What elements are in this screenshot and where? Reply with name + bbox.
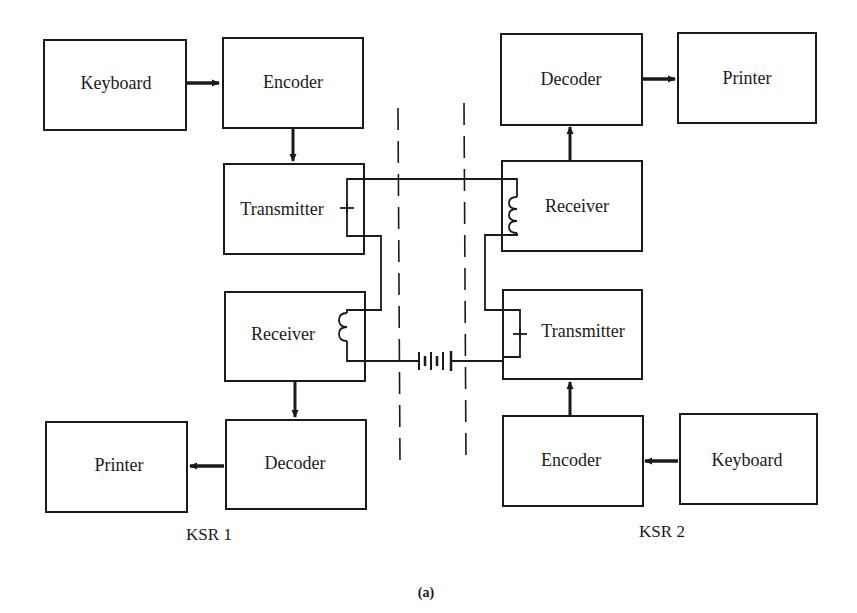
block-encoder-ksr2-label: Encoder (541, 450, 601, 471)
line-boundary-left (398, 108, 400, 462)
block-transmitter-ksr1-label: Transmitter (240, 199, 323, 220)
block-keyboard-ksr2-label: Keyboard (712, 450, 783, 471)
ksr-current-loop-diagram: Keyboard Encoder Transmitter Receiver De… (0, 0, 857, 613)
station-caption-ksr1: KSR 1 (186, 525, 232, 545)
battery-icon (419, 351, 451, 371)
block-printer-ksr1-label: Printer (95, 455, 144, 476)
block-receiver-ksr1-label: Receiver (251, 324, 315, 345)
block-printer-ksr2-label: Printer (723, 68, 772, 89)
figure-label: (a) (418, 585, 434, 601)
station-caption-ksr2: KSR 2 (639, 522, 685, 542)
line-boundary-right (464, 103, 466, 460)
block-decoder-ksr1-label: Decoder (265, 453, 326, 474)
block-decoder-ksr2-label: Decoder (541, 69, 602, 90)
block-keyboard-ksr1-label: Keyboard (81, 73, 152, 94)
current-loop-wiring (347, 179, 520, 361)
block-encoder-ksr1-label: Encoder (263, 72, 323, 93)
block-transmitter-ksr2-label: Transmitter (541, 321, 624, 342)
block-receiver-ksr2-label: Receiver (545, 196, 609, 217)
